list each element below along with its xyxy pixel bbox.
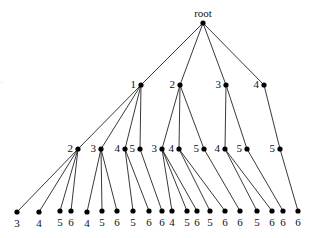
tree-node	[201, 146, 206, 151]
tree-edge	[140, 149, 162, 211]
node-label: 3	[91, 142, 97, 154]
node-label: 6	[68, 216, 74, 228]
tree-node	[138, 82, 143, 87]
tree-diagram: root1234234534545534564565664565665666	[0, 0, 314, 238]
tree-node	[184, 208, 189, 213]
node-label: 5	[270, 142, 276, 154]
tree-edge	[140, 85, 141, 149]
tree-edge	[180, 85, 204, 149]
tree-node	[207, 208, 212, 213]
node-label: 5	[130, 216, 136, 228]
node-label: 5	[207, 216, 213, 228]
node-label: 5	[237, 142, 243, 154]
node-label: 3	[152, 142, 158, 154]
tree-node	[84, 209, 89, 214]
tree-nodes	[14, 20, 300, 214]
tree-node	[130, 208, 135, 213]
node-label: 4	[215, 142, 221, 154]
tree-node	[244, 146, 249, 151]
tree-node	[137, 146, 142, 151]
node-label: 6	[295, 216, 301, 228]
node-label: 3	[14, 217, 20, 229]
tree-edge	[162, 85, 180, 149]
node-label: 6	[237, 216, 243, 228]
tree-node	[222, 146, 227, 151]
node-label: 6	[194, 216, 200, 228]
tree-node	[254, 208, 259, 213]
tree-node	[14, 209, 19, 214]
tree-node	[122, 146, 127, 151]
tree-edge	[264, 85, 280, 149]
cropped-artifact-mark: ·	[1, 80, 4, 85]
tree-edge	[87, 149, 101, 212]
node-label: 5	[194, 142, 200, 154]
tree-edge	[125, 85, 141, 149]
tree-node	[98, 146, 103, 151]
tree-node	[177, 82, 182, 87]
node-label: 5	[254, 216, 260, 228]
node-label: 2	[68, 142, 74, 154]
node-label: 6	[280, 216, 286, 228]
node-label: 1	[131, 78, 137, 90]
tree-node	[75, 146, 80, 151]
tree-node	[169, 208, 174, 213]
node-label: 4	[36, 217, 42, 229]
tree-node	[269, 208, 274, 213]
node-label: 6	[222, 216, 228, 228]
tree-edge	[204, 149, 240, 211]
tree-node	[99, 208, 104, 213]
node-label: 6	[269, 216, 275, 228]
node-label: 2	[170, 78, 176, 90]
node-label: 6	[146, 216, 152, 228]
node-label: 4	[169, 142, 175, 154]
tree-edge	[203, 23, 226, 85]
tree-edge	[101, 149, 102, 211]
tree-edge	[179, 85, 180, 149]
tree-node	[277, 146, 282, 151]
node-label: 6	[114, 216, 120, 228]
tree-node	[159, 208, 164, 213]
tree-node	[295, 208, 300, 213]
tree-node	[223, 82, 228, 87]
tree-node	[36, 209, 41, 214]
node-label: 4	[115, 142, 121, 154]
tree-edge	[78, 85, 141, 149]
root-node	[200, 20, 205, 25]
node-label: 5	[184, 216, 190, 228]
tree-edge	[101, 149, 117, 211]
tree-node	[159, 146, 164, 151]
tree-node	[114, 208, 119, 213]
tree-edge	[141, 23, 203, 85]
tree-node	[261, 82, 266, 87]
node-label: 5	[99, 216, 105, 228]
node-label: 4	[84, 217, 90, 229]
node-label: 6	[159, 216, 165, 228]
tree-edge	[280, 149, 298, 211]
tree-node	[68, 208, 73, 213]
tree-edge	[225, 85, 226, 149]
node-label: 5	[130, 142, 136, 154]
tree-node	[237, 208, 242, 213]
tree-node	[194, 208, 199, 213]
tree-edge	[180, 23, 203, 85]
tree-edges	[17, 23, 298, 212]
node-label: 5	[57, 216, 63, 228]
root-label: root	[194, 7, 212, 19]
node-label: 3	[216, 78, 222, 90]
node-label: 4	[254, 78, 260, 90]
tree-edge	[101, 85, 141, 149]
tree-node	[57, 208, 62, 213]
tree-node	[176, 146, 181, 151]
tree-edge	[226, 85, 247, 149]
tree-node	[146, 208, 151, 213]
tree-edge	[179, 149, 225, 211]
tree-labels: root1234234534545534564565664565665666	[14, 7, 301, 229]
tree-node	[222, 208, 227, 213]
tree-node	[280, 208, 285, 213]
tree-edge	[203, 23, 264, 85]
node-label: 4	[169, 216, 175, 228]
